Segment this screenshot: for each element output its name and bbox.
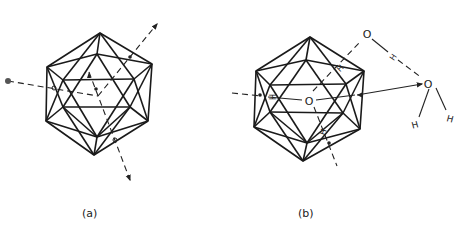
symmetry-axes-a xyxy=(5,24,157,180)
caption-b: (b) xyxy=(298,207,314,220)
caption-a: (a) xyxy=(82,207,97,220)
external-oxygen-top-label: O xyxy=(363,28,372,41)
hydrogen-label: H xyxy=(318,128,329,137)
hydrogen-label: H xyxy=(269,94,278,100)
bond-arrow-right xyxy=(357,84,422,95)
atom-labels-b: O O O H H H H H H xyxy=(269,28,455,137)
hydrogen-label: H xyxy=(388,52,399,62)
bond-left-dashed xyxy=(232,93,262,96)
center-oxygen-label: O xyxy=(305,95,314,108)
external-oxygen-right-label: O xyxy=(424,78,433,91)
diagram-canvas: O O O H H H H H H xyxy=(0,0,456,231)
axis-end-dot xyxy=(5,78,11,84)
water-hydrogen-right-label: H xyxy=(445,113,454,124)
water-hydrogen-left-label: H xyxy=(410,119,419,130)
